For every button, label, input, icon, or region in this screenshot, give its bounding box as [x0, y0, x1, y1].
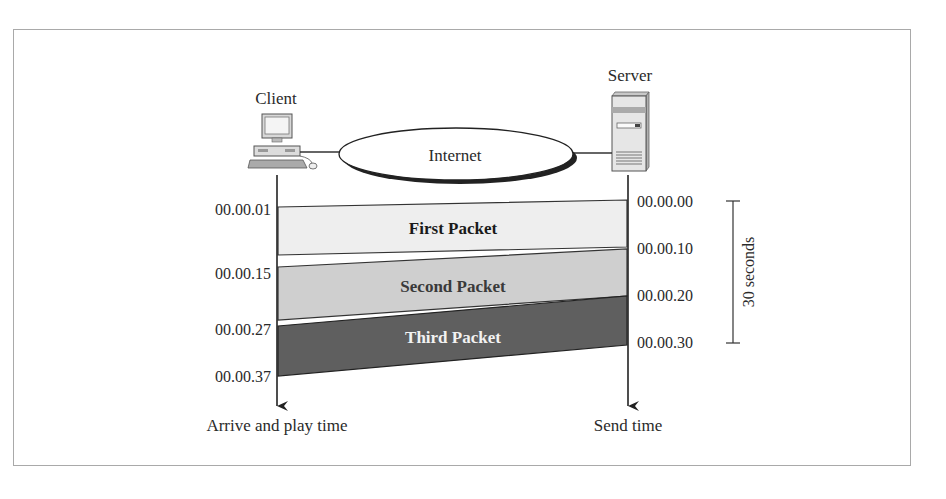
packet-label: Third Packet: [405, 328, 501, 347]
server-ticks: 00.00.00 00.00.10 00.00.20 00.00.30: [637, 193, 693, 351]
client-ticks: 00.00.01 00.00.15 00.00.27 00.00.37: [215, 201, 271, 385]
client-label: Client: [255, 89, 297, 108]
packet-label: First Packet: [409, 219, 498, 238]
timing-diagram: Client Server Internet F: [0, 0, 946, 499]
server-axis-caption: Send time: [594, 416, 662, 435]
packet-first: First Packet: [278, 200, 627, 255]
tower-server-icon: [612, 92, 649, 171]
client-axis-caption: Arrive and play time: [206, 416, 347, 435]
packet-label: Second Packet: [400, 277, 506, 296]
tick-label: 00.00.00: [637, 193, 693, 210]
tick-label: 00.00.20: [637, 287, 693, 304]
desktop-computer-icon: [248, 114, 317, 169]
internet-label: Internet: [429, 146, 482, 165]
duration-bracket: 30 seconds: [726, 201, 757, 343]
tick-label: 00.00.27: [215, 321, 271, 338]
bracket-label: 30 seconds: [740, 237, 757, 308]
tick-label: 00.00.37: [215, 368, 271, 385]
tick-label: 00.00.15: [215, 265, 271, 282]
server-label: Server: [608, 66, 653, 85]
tick-label: 00.00.01: [215, 201, 271, 218]
tick-label: 00.00.10: [637, 240, 693, 257]
tick-label: 00.00.30: [637, 334, 693, 351]
internet-ellipse: Internet: [339, 128, 577, 184]
